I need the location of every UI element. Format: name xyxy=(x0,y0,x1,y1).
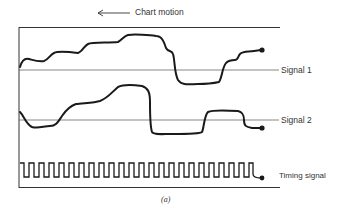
signal-2-trace xyxy=(20,85,261,134)
timing-signal-label: Timing signal xyxy=(279,171,326,180)
figure-caption: (a) xyxy=(161,195,170,204)
signal-1-end-dot xyxy=(259,47,264,52)
signal-2-end-dot xyxy=(259,125,264,130)
timing-signal-end-dot xyxy=(260,176,265,181)
timing-signal-trace xyxy=(20,163,261,178)
signal-1-label: Signal 1 xyxy=(281,65,312,75)
signal-1-trace xyxy=(20,35,261,85)
chart-motion-label: Chart motion xyxy=(135,7,184,17)
signal-2-label: Signal 2 xyxy=(281,115,312,125)
strip-chart-diagram xyxy=(0,0,349,217)
left-arrow-icon xyxy=(98,10,130,16)
